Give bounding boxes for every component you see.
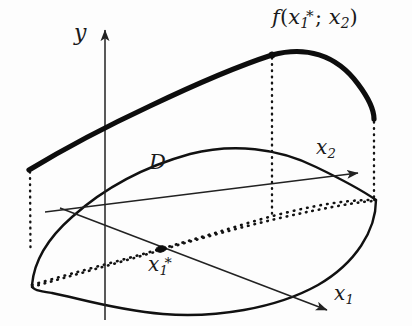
diagram-canvas	[0, 0, 412, 326]
function-label-x2: x	[329, 5, 341, 29]
x1-star-label-star: ∗	[164, 252, 174, 268]
y-axis-label: y	[74, 22, 86, 44]
x1-axis-label: x1	[334, 283, 354, 306]
constant-x1-chord	[32, 201, 376, 287]
figure-root: f(x1∗; x2) y x2 x1 D x1∗	[0, 0, 412, 326]
x1-axis-label-sub: 1	[346, 292, 354, 307]
domain-label: D	[149, 152, 166, 173]
f-maximum-point-marker	[269, 52, 275, 58]
function-label-close-paren: )	[350, 5, 358, 29]
x1-axis-label-base: x	[334, 281, 345, 305]
x1-axis	[60, 208, 327, 310]
function-label-f: f	[272, 5, 280, 29]
x2-axis-label: x2	[316, 137, 336, 160]
x2-axis-label-base: x	[316, 135, 327, 159]
function-label: f(x1∗; x2)	[272, 6, 358, 31]
left-endpoint-drop-line	[30, 172, 31, 252]
function-label-semicolon: ;	[315, 5, 322, 29]
x2-axis	[45, 173, 358, 212]
function-label-open-paren: (	[280, 5, 288, 29]
function-label-sub-2: 2	[341, 15, 350, 31]
function-label-star: ∗	[305, 4, 315, 22]
function-label-x: x	[288, 5, 300, 29]
x1-star-point-label: x1∗	[148, 253, 173, 277]
x2-axis-label-sub: 2	[328, 146, 336, 161]
x1-star-label-base: x	[148, 252, 159, 276]
